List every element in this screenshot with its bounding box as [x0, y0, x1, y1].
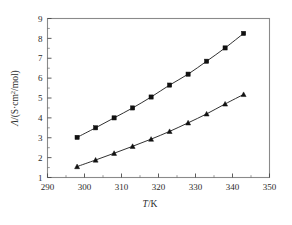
svg-text:T/K: T/K	[143, 199, 158, 209]
y-axis-tick-labels: 123456789	[38, 14, 43, 183]
x-tick-label-350: 350	[263, 182, 277, 192]
y-tick-label-1: 1	[38, 173, 43, 183]
y-axis-major-ticks	[48, 19, 52, 178]
series-lower-series	[75, 92, 247, 169]
chart-canvas: 290300310320330340350 123456789 T/K Λ/(S…	[0, 0, 292, 225]
series-line-upper-series	[77, 33, 244, 137]
data-point-upper-series-328	[186, 72, 190, 76]
x-tick-label-310: 310	[115, 182, 129, 192]
data-point-lower-series-328	[186, 120, 191, 125]
data-point-upper-series-343	[242, 31, 246, 35]
chart-figure: 290300310320330340350 123456789 T/K Λ/(S…	[0, 0, 292, 225]
data-point-upper-series-303	[94, 126, 98, 130]
y-tick-label-4: 4	[38, 113, 43, 123]
y-tick-label-2: 2	[38, 153, 43, 163]
series-line-lower-series	[77, 94, 244, 166]
x-axis-tick-labels: 290300310320330340350	[41, 182, 277, 192]
y-tick-label-9: 9	[38, 14, 43, 24]
data-point-upper-series-318	[149, 95, 153, 99]
svg-text:Λ/(S·cm2/mol): Λ/(S·cm2/mol)	[9, 70, 21, 126]
y-tick-label-7: 7	[38, 53, 43, 63]
y-axis-title-unit-close: /mol)	[10, 70, 21, 91]
data-point-upper-series-313	[131, 106, 135, 110]
x-axis-major-ticks	[48, 174, 270, 178]
x-tick-label-340: 340	[226, 182, 240, 192]
x-tick-label-320: 320	[152, 182, 166, 192]
x-axis-title-unit: /K	[148, 199, 158, 209]
y-tick-label-5: 5	[38, 93, 43, 103]
x-tick-label-330: 330	[189, 182, 203, 192]
data-point-lower-series-338	[223, 101, 228, 106]
x-axis-title: T/K	[143, 199, 158, 209]
y-tick-label-3: 3	[38, 133, 43, 143]
data-point-upper-series-323	[168, 83, 172, 87]
data-point-lower-series-333	[204, 111, 209, 116]
series-upper-series	[75, 31, 246, 139]
data-point-upper-series-308	[112, 116, 116, 120]
data-point-upper-series-338	[223, 46, 227, 50]
y-axis-title-unit-open: /(S·cm	[10, 94, 21, 120]
y-tick-label-8: 8	[38, 34, 43, 44]
x-tick-label-300: 300	[78, 182, 92, 192]
data-series-layer	[75, 31, 247, 168]
data-point-lower-series-343	[241, 92, 246, 97]
x-tick-label-290: 290	[41, 182, 55, 192]
y-tick-label-6: 6	[38, 73, 43, 83]
data-point-upper-series-333	[205, 59, 209, 63]
data-point-upper-series-298	[75, 135, 79, 139]
data-point-lower-series-323	[167, 129, 172, 134]
data-point-lower-series-318	[149, 137, 154, 142]
y-axis-title: Λ/(S·cm2/mol)	[9, 70, 21, 126]
